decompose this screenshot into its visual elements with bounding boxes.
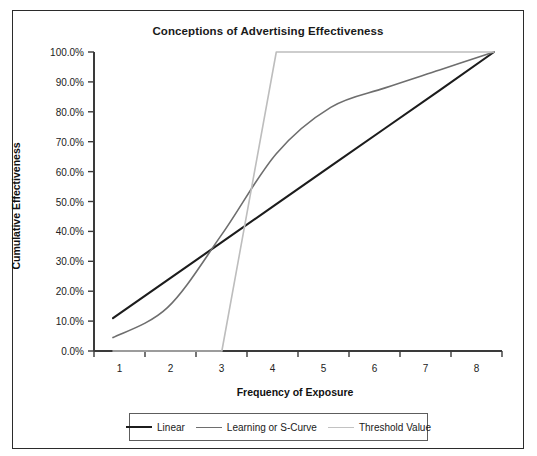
x-axis-title: Frequency of Exposure	[85, 386, 505, 398]
legend-line-swatch	[196, 427, 222, 428]
y-axis-tick-label: 50.0%	[16, 196, 84, 207]
x-axis-tick-label: 1	[117, 363, 123, 374]
legend-item[interactable]: Linear	[126, 422, 185, 433]
x-axis-tick-label: 6	[372, 363, 378, 374]
legend-line-swatch	[328, 427, 354, 428]
x-axis-tick-label: 8	[474, 363, 480, 374]
y-axis-tick-label: 90.0%	[16, 76, 84, 87]
y-axis-tick-label: 100.0%	[16, 47, 84, 58]
y-axis-tick-label: 0.0%	[16, 346, 84, 357]
legend-item-label: Threshold Value	[359, 422, 431, 433]
x-axis-tick-label: 3	[219, 363, 225, 374]
y-axis-tick-label: 30.0%	[16, 256, 84, 267]
y-axis-tick-label: 10.0%	[16, 316, 84, 327]
chart-legend: LinearLearning or S-CurveThreshold Value	[129, 413, 428, 441]
legend-line-swatch	[126, 426, 152, 428]
y-axis-tick-label: 60.0%	[16, 166, 84, 177]
y-axis-tick-label: 20.0%	[16, 286, 84, 297]
legend-item-label: Learning or S-Curve	[227, 422, 317, 433]
x-axis-tick-label: 4	[270, 363, 276, 374]
chart-frame: Conceptions of Advertising Effectiveness	[12, 10, 524, 449]
y-axis-tick-label: 40.0%	[16, 226, 84, 237]
legend-item[interactable]: Threshold Value	[328, 422, 431, 433]
legend-item[interactable]: Learning or S-Curve	[196, 422, 317, 433]
x-axis-tick-label: 5	[321, 363, 327, 374]
legend-item-label: Linear	[157, 422, 185, 433]
x-axis-tick-label: 2	[168, 363, 174, 374]
y-axis-tick-label: 70.0%	[16, 136, 84, 147]
y-axis-tick-label: 80.0%	[16, 106, 84, 117]
x-axis-tick-label: 7	[423, 363, 429, 374]
chart-title: Conceptions of Advertising Effectiveness	[13, 25, 523, 37]
